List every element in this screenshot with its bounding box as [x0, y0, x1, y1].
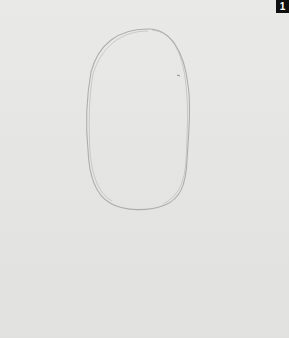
step-number-badge: 1 [276, 0, 289, 13]
head-outline-sketch [0, 0, 289, 338]
